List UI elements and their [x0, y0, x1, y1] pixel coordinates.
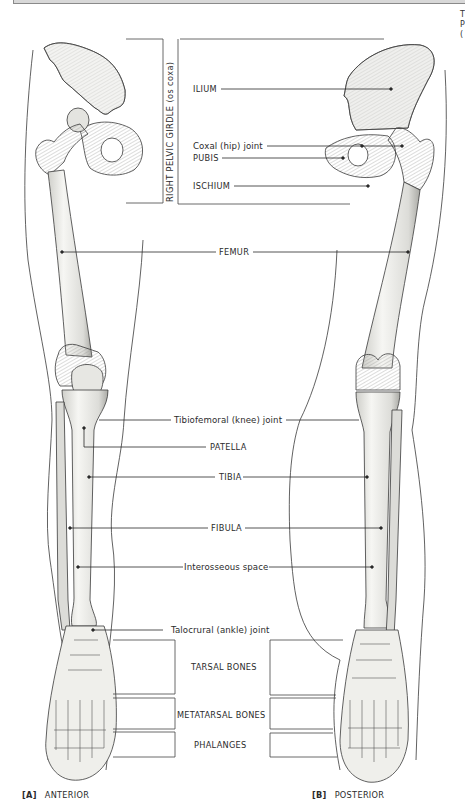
caption-posterior: [B]POSTERIOR — [312, 790, 384, 800]
caption-posterior-key: [B] — [312, 790, 327, 800]
label-patella: PATELLA — [209, 442, 248, 452]
label-phalanges: PHALANGES — [193, 740, 248, 750]
caption-anterior-text: ANTERIOR — [45, 790, 90, 800]
pelvic-girdle-label: RIGHT PELVIC GIRDLE (os coxa) — [165, 62, 175, 202]
label-interosseous-space: Interosseous space — [183, 562, 269, 572]
label-metatarsal-bones: METATARSAL BONES — [176, 710, 267, 720]
skeleton-illustration — [0, 0, 465, 806]
label-ankle-joint: Talocrural (ankle) joint — [170, 625, 270, 635]
label-femur: FEMUR — [218, 247, 250, 257]
caption-posterior-text: POSTERIOR — [335, 790, 385, 800]
label-tarsal-bones: TARSAL BONES — [190, 662, 258, 672]
label-knee-joint: Tibiofemoral (knee) joint — [173, 415, 283, 425]
label-ilium: ILIUM — [192, 84, 218, 94]
label-pubis: PUBIS — [192, 153, 220, 163]
label-coxal-joint: Coxal (hip) joint — [192, 141, 264, 151]
caption-anterior: [A]ANTERIOR — [22, 790, 89, 800]
posterior-skeleton — [325, 45, 434, 783]
label-ischium: ISCHIUM — [192, 181, 231, 191]
caption-anterior-key: [A] — [22, 790, 37, 800]
label-fibula: FIBULA — [210, 523, 243, 533]
label-tibia: TIBIA — [218, 472, 243, 482]
